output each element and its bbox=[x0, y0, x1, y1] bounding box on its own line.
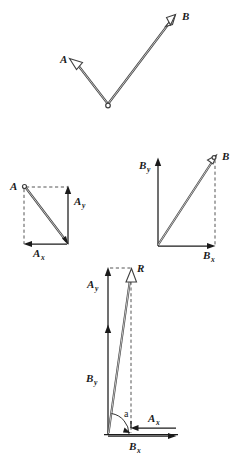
r-a-y-component-arrow bbox=[105, 267, 111, 330]
panel-resultant: R A y B y a A x B x bbox=[85, 262, 178, 455]
vector-a-arrow bbox=[70, 59, 109, 105]
a-main-vector bbox=[26, 188, 69, 245]
b-main-shaft-highlight bbox=[158, 162, 212, 245]
a-x-component-arrow bbox=[24, 241, 68, 247]
label-a-y: A y bbox=[73, 195, 86, 210]
vector-a-shaft-highlight bbox=[78, 65, 109, 105]
figure-canvas: A B bbox=[0, 0, 245, 458]
a-y-component-arrow bbox=[65, 186, 71, 245]
label-a-y-main: A bbox=[73, 195, 81, 207]
label-r-vector: R bbox=[136, 262, 144, 274]
label-r-b-y: B y bbox=[85, 372, 98, 387]
label-b-y: B y bbox=[138, 159, 151, 174]
a-tail-dot bbox=[23, 185, 27, 189]
b-y-arrowhead bbox=[155, 158, 161, 167]
angle-arc-arrowhead bbox=[123, 428, 131, 434]
label-vector-b: B bbox=[181, 10, 189, 22]
panel-vector-b-components: B B y B x bbox=[138, 150, 229, 264]
label-r-b-x-main: B bbox=[128, 440, 136, 452]
label-r-a-y: A y bbox=[86, 278, 99, 293]
label-vector-a: A bbox=[59, 53, 67, 65]
a-y-arrowhead bbox=[65, 186, 71, 195]
a-main-shaft-highlight bbox=[26, 188, 67, 242]
label-b-x: B x bbox=[202, 249, 215, 264]
label-r-a-x: A x bbox=[147, 412, 160, 427]
label-b-vector: B bbox=[221, 150, 229, 162]
label-r-a-y-sub: y bbox=[94, 284, 99, 293]
a-x-arrowhead bbox=[24, 241, 33, 247]
label-b-y-main: B bbox=[138, 159, 146, 171]
label-b-y-sub: y bbox=[146, 165, 151, 174]
vector-b-shaft-highlight bbox=[108, 22, 170, 104]
label-a-x-main: A bbox=[32, 247, 40, 259]
label-r-b-x: B x bbox=[128, 440, 141, 455]
label-b-x-main: B bbox=[202, 249, 210, 261]
r-a-x-arrowhead bbox=[131, 425, 139, 431]
label-angle: a bbox=[124, 408, 129, 419]
label-r-b-x-sub: x bbox=[136, 446, 141, 455]
b-y-component-arrow bbox=[155, 158, 161, 247]
label-a-vector: A bbox=[9, 180, 17, 192]
vector-b-arrow bbox=[108, 15, 176, 105]
r-main-vector bbox=[109, 269, 137, 434]
label-r-a-x-sub: x bbox=[155, 418, 160, 427]
label-b-x-sub: x bbox=[210, 255, 215, 264]
common-origin-dot bbox=[106, 103, 111, 108]
panel-top-vectors: A B bbox=[59, 10, 189, 108]
label-a-x-sub: x bbox=[40, 253, 45, 262]
label-r-a-y-main: A bbox=[86, 278, 94, 290]
label-r-b-y-sub: y bbox=[93, 378, 98, 387]
r-main-arrowhead bbox=[126, 269, 137, 283]
b-main-vector bbox=[158, 155, 217, 245]
label-r-a-x-main: A bbox=[147, 412, 155, 424]
b-tip-dot bbox=[212, 156, 216, 160]
panel-vector-a-components: A A y A x bbox=[9, 180, 86, 262]
vector-diagram-figure: A B bbox=[0, 0, 245, 458]
label-a-x: A x bbox=[32, 247, 45, 262]
label-r-b-y-main: B bbox=[85, 372, 93, 384]
label-a-y-sub: y bbox=[81, 201, 86, 210]
